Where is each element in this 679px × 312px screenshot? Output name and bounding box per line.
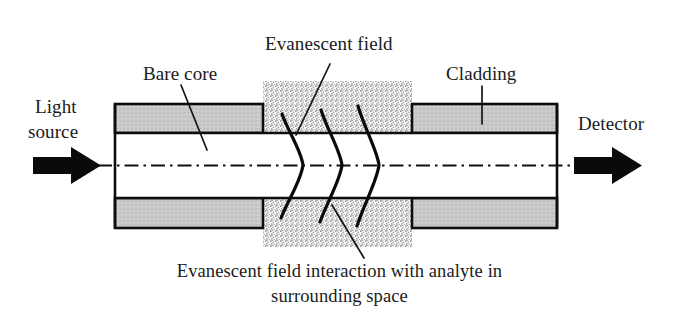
figure-canvas: Light source Detector Bare core Evanesce… (0, 0, 679, 312)
caption-line-1: Evanescent field interaction with analyt… (177, 261, 502, 281)
caption-line-2: surrounding space (271, 286, 408, 306)
label-bare-core: Bare core (143, 63, 217, 84)
cladding-upper-right (412, 104, 557, 133)
label-light-source-line2: source (28, 121, 78, 142)
evanescent-field-sensor-figure: Light source Detector Bare core Evanesce… (0, 0, 679, 312)
light-source-arrow[interactable] (33, 147, 101, 184)
label-light-source-line1: Light (35, 96, 77, 117)
label-cladding: Cladding (446, 63, 517, 84)
cladding-upper-left (115, 104, 263, 133)
detector-arrow[interactable] (574, 147, 642, 184)
label-detector: Detector (578, 113, 645, 134)
cladding-lower-left (115, 198, 263, 228)
cladding-lower-right (412, 198, 557, 228)
label-evanescent-field: Evanescent field (265, 33, 393, 54)
